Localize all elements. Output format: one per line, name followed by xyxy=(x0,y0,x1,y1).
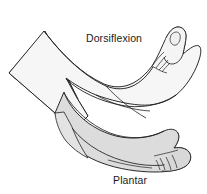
plantar-flexion-label-line1: Plantar xyxy=(113,174,147,186)
dorsiflexion-label: Dorsiflexion xyxy=(86,33,142,45)
dorsiflexed-toenail xyxy=(170,32,180,45)
ankle-motion-figure: Dorsiflexion Plantar flexion xyxy=(0,0,207,194)
plantar-flexion-label: Plantar flexion xyxy=(101,163,147,194)
